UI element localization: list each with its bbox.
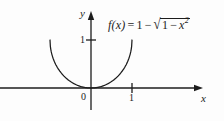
- equation-function-label: f(x): [108, 18, 125, 32]
- function-graph-figure: f(x)=1−√1−x2 y x 0 1 1: [0, 0, 224, 121]
- y-axis: [88, 11, 94, 110]
- equation-leading-term: 1: [136, 18, 142, 32]
- equation-radicand: 1−x2: [160, 18, 190, 31]
- radicand-exponent: 2: [185, 16, 189, 25]
- x-axis-label: x: [201, 93, 206, 104]
- radicand-variable: x: [179, 18, 185, 32]
- y-axis-label: y: [80, 8, 85, 19]
- equation-minus-sign: −: [143, 18, 154, 32]
- x-axis-arrowhead: [194, 85, 203, 92]
- x-axis-tick-label-1: 1: [129, 93, 134, 103]
- y-axis-tick-label-1: 1: [80, 35, 85, 45]
- equation-equals-sign: =: [125, 18, 136, 32]
- y-axis-arrowhead: [88, 11, 94, 20]
- x-axis: [0, 85, 203, 92]
- origin-label: 0: [81, 92, 86, 102]
- function-equation-annotation: f(x)=1−√1−x2: [108, 18, 190, 31]
- radicand-minus-sign: −: [168, 18, 179, 32]
- equation-radical: √1−x2: [154, 18, 190, 31]
